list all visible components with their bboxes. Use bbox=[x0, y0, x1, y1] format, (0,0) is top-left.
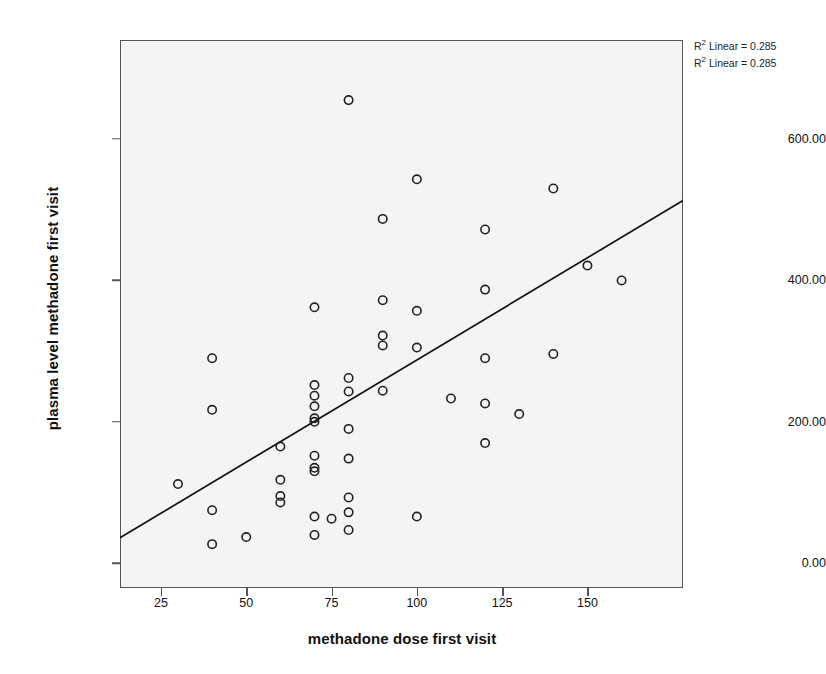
data-point bbox=[515, 410, 523, 418]
data-point bbox=[344, 493, 352, 501]
data-point bbox=[481, 285, 489, 293]
data-point bbox=[310, 391, 318, 399]
data-point bbox=[344, 508, 352, 516]
data-point bbox=[583, 261, 591, 269]
x-axis-tick-label: 75 bbox=[302, 596, 362, 610]
r-squared-label: R2 Linear = 0.285 bbox=[694, 36, 776, 53]
data-point bbox=[310, 303, 318, 311]
data-point bbox=[617, 276, 625, 284]
data-point bbox=[549, 350, 557, 358]
r-squared-label: R2 Linear = 0.285 bbox=[694, 53, 776, 70]
data-point bbox=[447, 394, 455, 402]
x-axis-tick-mark bbox=[587, 588, 589, 596]
data-point-group bbox=[174, 96, 626, 548]
x-axis-title: methadone dose first visit bbox=[120, 630, 684, 647]
y-axis-tick-label: 400.00 bbox=[756, 273, 826, 287]
data-point bbox=[174, 480, 182, 488]
data-point bbox=[276, 476, 284, 484]
data-point bbox=[344, 425, 352, 433]
y-axis-tick-mark bbox=[112, 280, 120, 282]
data-point bbox=[344, 526, 352, 534]
x-axis-tick-label: 125 bbox=[472, 596, 532, 610]
data-point bbox=[310, 402, 318, 410]
y-axis-tick-label: 0.00 bbox=[756, 556, 826, 570]
x-axis-tick-label: 150 bbox=[557, 596, 617, 610]
data-point bbox=[413, 175, 421, 183]
data-point bbox=[413, 512, 421, 520]
data-point bbox=[208, 406, 216, 414]
y-axis-title: plasma level methadone first visit bbox=[44, 109, 61, 509]
x-axis-tick-mark bbox=[161, 588, 163, 596]
x-axis-tick-mark bbox=[417, 588, 419, 596]
data-point bbox=[310, 512, 318, 520]
data-point bbox=[242, 533, 250, 541]
data-point bbox=[208, 540, 216, 548]
y-axis-tick-label: 600.00 bbox=[756, 132, 826, 146]
data-point bbox=[481, 225, 489, 233]
data-point bbox=[327, 515, 335, 523]
data-point bbox=[481, 439, 489, 447]
data-point bbox=[310, 452, 318, 460]
data-point bbox=[344, 387, 352, 395]
data-point bbox=[379, 331, 387, 339]
plot-canvas bbox=[120, 40, 683, 588]
data-point bbox=[208, 354, 216, 362]
data-point bbox=[379, 341, 387, 349]
data-point bbox=[413, 307, 421, 315]
data-point bbox=[549, 184, 557, 192]
data-point bbox=[344, 454, 352, 462]
y-axis-tick-mark bbox=[112, 563, 120, 565]
y-axis-tick-mark bbox=[112, 421, 120, 423]
data-point bbox=[208, 506, 216, 514]
x-axis-tick-label: 100 bbox=[387, 596, 447, 610]
data-point bbox=[379, 215, 387, 223]
x-axis-tick-label: 25 bbox=[131, 596, 191, 610]
data-point bbox=[413, 343, 421, 351]
data-point bbox=[310, 381, 318, 389]
r-squared-annotations: R2 Linear = 0.285R2 Linear = 0.285 bbox=[694, 36, 776, 69]
data-point bbox=[481, 354, 489, 362]
y-axis-tick-mark bbox=[112, 138, 120, 140]
data-point bbox=[481, 399, 489, 407]
x-axis-tick-label: 50 bbox=[216, 596, 276, 610]
x-axis-tick-mark bbox=[246, 588, 248, 596]
data-point bbox=[310, 531, 318, 539]
data-point bbox=[344, 374, 352, 382]
data-point bbox=[379, 296, 387, 304]
x-axis-tick-mark bbox=[332, 588, 334, 596]
y-axis-tick-label: 200.00 bbox=[756, 415, 826, 429]
regression-line bbox=[120, 201, 683, 538]
data-point bbox=[379, 387, 387, 395]
data-point bbox=[276, 442, 284, 450]
x-axis-tick-mark bbox=[502, 588, 504, 596]
scatter-plot-figure: plasma level methadone first visit 0.002… bbox=[0, 0, 826, 674]
data-point bbox=[344, 96, 352, 104]
